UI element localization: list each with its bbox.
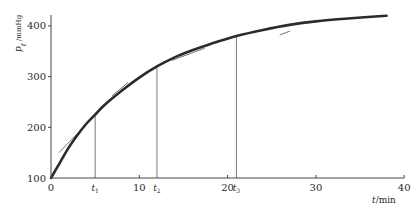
y-tick-label: 300 [27, 71, 46, 82]
y-axis-unit: /mmHg [15, 14, 23, 41]
marker-label-t1: t1 [91, 183, 98, 194]
y-axis-title: pt/mmHg [13, 14, 28, 52]
tangent-line [172, 48, 205, 60]
pressure-curve [51, 16, 387, 178]
marker-label-t2: t2 [153, 183, 161, 194]
plot-area [51, 16, 387, 178]
y-tick-label: 100 [27, 173, 46, 184]
y-tick-label: 400 [27, 20, 46, 31]
x-axis-title: t/min [372, 195, 396, 205]
marker-label-t3: t3 [233, 183, 241, 194]
x-tick-label: 10 [133, 182, 146, 193]
x-tick-label: 0 [48, 182, 54, 193]
y-tick-label: 200 [27, 122, 46, 133]
labels: pt/mmHg t/min [13, 14, 396, 205]
tangent-line [280, 31, 291, 35]
x-tick-label: 40 [398, 182, 411, 193]
x-tick-label: 30 [310, 182, 323, 193]
y-axis-subscript: t [19, 42, 28, 46]
pressure-time-chart: 010203040100200300400t1t2t3 pt/mmHg t/mi… [0, 0, 419, 215]
x-axis-unit: /min [376, 195, 396, 205]
